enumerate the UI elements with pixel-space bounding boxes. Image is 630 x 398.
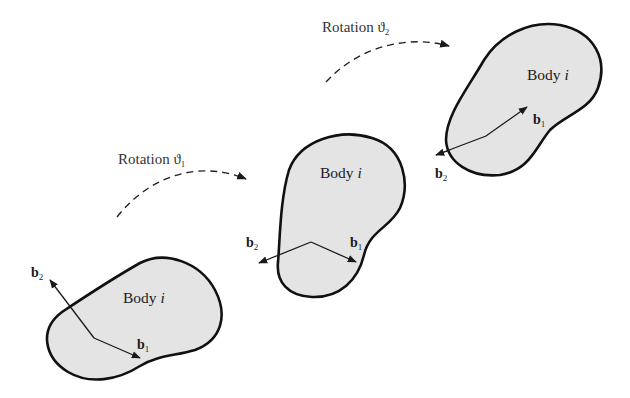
body-3: Body i b1 b2 <box>435 24 601 183</box>
body-1-b2-label: b2 <box>31 265 43 282</box>
rotation-1: Rotation ϑ1 <box>117 151 246 217</box>
rotation-2: Rotation ϑ2 <box>322 19 449 82</box>
body-2-label: Body i <box>320 164 362 181</box>
body-2-outline <box>278 135 405 297</box>
body-2: Body i b2 b1 <box>246 135 405 297</box>
body-1-outline <box>47 258 222 380</box>
rotation-1-label: Rotation ϑ1 <box>118 151 185 169</box>
rotation-1-arc <box>117 171 246 217</box>
body-1-label: Body i <box>123 289 165 306</box>
rotation-sequence-diagram: Body i b2 b1 Rotation ϑ1 Body i b2 b1 Ro… <box>0 0 630 398</box>
body-3-label: Body i <box>527 66 569 83</box>
body-1: Body i b2 b1 <box>31 258 222 380</box>
body-3-b2-label: b2 <box>435 166 447 183</box>
rotation-2-label: Rotation ϑ2 <box>322 19 389 37</box>
body-3-outline <box>446 24 601 175</box>
body-2-b2-label: b2 <box>246 235 258 252</box>
rotation-2-arc <box>326 42 449 82</box>
